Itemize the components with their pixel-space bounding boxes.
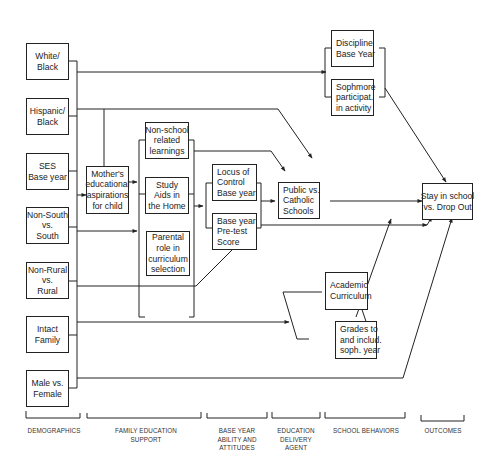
- category-outcomes: OUTCOMES: [418, 427, 468, 436]
- node-stay-dropout: Stay in school vs. Drop Out: [422, 183, 473, 220]
- node-mothers-aspirations: Mother's educational aspirations for chi…: [86, 166, 129, 214]
- node-nonsouth-south: Non-South vs. South: [26, 207, 69, 244]
- category-school-behaviors: SCHOOL BEHAVIORS: [324, 427, 408, 436]
- node-male-female: Male vs. Female: [26, 370, 69, 407]
- node-pretest-score: Base year Pre-test Score: [212, 213, 257, 250]
- category-demographics: DEMOGRAPHICS: [22, 427, 86, 436]
- node-academic-curriculum: Academic Curriculum: [325, 272, 368, 310]
- node-discipline: Discipline Base Year: [331, 30, 374, 67]
- category-ability-attitudes: BASE YEAR ABILITY AND ATTITUDES: [207, 427, 267, 453]
- node-white-black: White/ Black: [26, 43, 69, 80]
- node-nonrural-rural: Non-Rural vs. Rural: [26, 262, 69, 299]
- category-delivery-agent: EDUCATION DELIVERY AGENT: [270, 427, 322, 453]
- node-parental-role: Parental role in curriculum selection: [146, 231, 190, 276]
- category-family-education-support: FAMILY EDUCATION SUPPORT: [98, 427, 194, 444]
- node-nonschool-learnings: Non-school related learnings: [145, 122, 189, 159]
- node-ses-base-year: SES Base year: [26, 153, 69, 190]
- node-hispanic-black: Hispanic/ Black: [26, 98, 69, 135]
- node-locus-of-control: Locus of Control Base year: [212, 164, 257, 201]
- node-intact-family: Intact Family: [26, 316, 69, 353]
- node-study-aids: Study Aids in the Home: [145, 177, 189, 214]
- node-sophomore-activity: Sophmore participat. in activity: [331, 79, 374, 116]
- node-grades: Grades to and includ. soph. year: [335, 321, 377, 359]
- node-public-catholic: Public vs. Catholic Schools: [278, 182, 320, 219]
